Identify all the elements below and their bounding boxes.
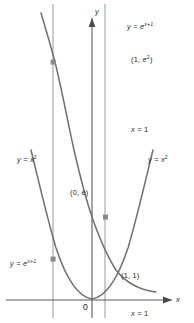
marker-point-e-squared	[51, 60, 56, 65]
label-parabola-right-exponent: 2	[165, 154, 168, 160]
label-vline-x-1-mid-lhs: x =	[131, 125, 144, 134]
label-parabola-right-lhs: y = x	[148, 155, 165, 164]
label-parabola-left: y = x2	[17, 155, 37, 164]
label-parabola-left-exponent: 2	[34, 154, 37, 160]
label-vline-x-1-mid-value: 1	[144, 125, 148, 134]
label-exponential-top-lhs: y = e	[127, 22, 144, 31]
label-point-e-squared-post: )	[150, 55, 153, 64]
label-point-1-1: (1, 1)	[121, 272, 139, 279]
marker-point-1-1	[51, 257, 56, 262]
math-graph-figure: y x 0 y = ex+1 (1, e2) x = 1 y = x2 y = …	[0, 0, 194, 323]
origin-label: 0	[83, 303, 88, 312]
x-axis-label: x	[176, 296, 180, 304]
label-point-0-e: (0, e)	[70, 189, 88, 196]
label-exponential-top: y = ex+1	[127, 22, 153, 31]
label-exponential-bottom: y = ex+1	[10, 259, 36, 268]
label-vline-x-1-bottom-lhs: x =	[131, 309, 144, 318]
label-point-e-squared: (1, e2)	[131, 55, 153, 64]
y-axis-arrowhead	[89, 18, 96, 27]
label-vline-x-1-bottom-value: 1	[144, 309, 148, 318]
marker-point-0-e	[103, 215, 108, 220]
label-vline-x-1-mid: x = 1	[131, 126, 148, 133]
label-point-e-squared-pre: (1,	[131, 55, 142, 64]
y-axis-label: y	[95, 8, 99, 16]
label-vline-x-1-bottom: x = 1	[131, 310, 148, 317]
label-exponential-bottom-exponent: x+1	[27, 258, 36, 264]
label-exponential-bottom-lhs: y = e	[10, 259, 27, 268]
label-parabola-right: y = x2	[148, 155, 168, 164]
label-exponential-top-exponent: x+1	[144, 21, 153, 27]
label-parabola-left-lhs: y = x	[17, 155, 34, 164]
x-axis-arrowhead	[163, 297, 172, 304]
